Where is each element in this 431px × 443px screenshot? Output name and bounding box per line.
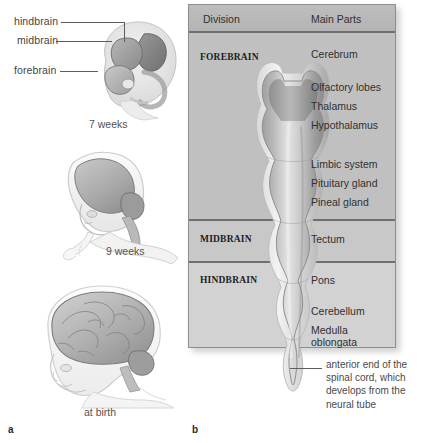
stage-caption-7-weeks: 7 weeks [89,118,128,130]
callout-label-hindbrain: hindbrain [14,15,58,27]
leader-hindbrain [61,22,124,23]
row-separator-hindbrain [189,261,395,263]
leader-midbrain [56,41,112,42]
column-header-division: Division [203,13,240,25]
part-cerebellum: Cerebellum [311,305,365,317]
panel-b-brain-divisions-table: Division Main Parts [186,0,431,443]
stage-caption-at-birth: at birth [84,406,116,418]
stage-caption-9-weeks: 9 weeks [106,245,145,257]
panel-a-embryonic-stages: hindbrain midbrain forebrain 7 weeks [0,0,186,443]
divisions-table: Division Main Parts [188,4,396,348]
callout-label-forebrain: forebrain [14,64,56,76]
leader-hindbrain-drop [124,22,125,42]
column-header-main-parts: Main Parts [311,13,361,25]
panel-letter-a: a [8,424,14,435]
leader-forebrain [60,71,98,72]
part-medulla: Medulla [311,324,348,336]
part-medulla-oblongata: oblongata [311,336,357,348]
part-olfactory-lobes: Olfactory lobes [311,81,381,93]
division-label-midbrain: MIDBRAIN [200,234,252,244]
leader-spinal-cord-caption [290,368,322,369]
part-pons: Pons [311,274,335,286]
panel-letter-b: b [192,424,198,435]
newborn-at-birth-illustration [22,280,182,410]
part-thalamus: Thalamus [311,100,357,112]
brain-development-figure: hindbrain midbrain forebrain 7 weeks [0,0,431,443]
part-tectum: Tectum [311,233,345,245]
row-separator-midbrain [189,219,395,221]
callout-label-midbrain: midbrain [17,34,58,46]
part-cerebrum: Cerebrum [311,48,358,60]
division-label-forebrain: FOREBRAIN [200,52,259,62]
part-limbic-system: Limbic system [311,158,378,170]
part-pineal-gland: Pineal gland [311,196,369,208]
division-label-hindbrain: HINDBRAIN [200,275,257,285]
part-hypothalamus: Hypothalamus [311,119,378,131]
embryo-7-weeks-illustration [84,14,186,122]
part-pituitary-gland: Pituitary gland [311,177,378,189]
spinal-cord-caption: anterior end of the spinal cord, which d… [326,358,431,411]
